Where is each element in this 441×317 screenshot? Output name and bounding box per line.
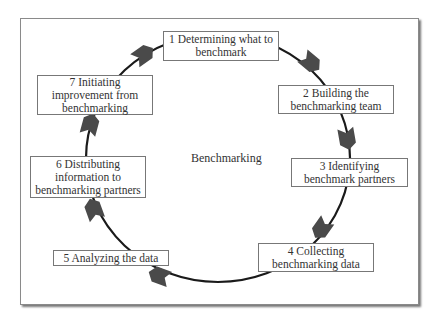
step-3-box: 3 Identifying benchmark partners [291,158,408,187]
step-2-label: 2 Building the benchmarking team [282,87,390,113]
step-6-box: 6 Distributing information to benchmarki… [30,156,146,198]
step-7-box: 7 Initiating improvement from benchmarki… [37,75,153,115]
step-4-label: 4 Collecting benchmarking data [262,245,370,271]
arrow-icon-4-to-5 [146,264,172,287]
arrow-icon-1-to-2 [297,49,324,75]
arrow-icon-6-to-7 [80,111,101,136]
diagram-title: Benchmarking [191,151,262,166]
step-3-label: 3 Identifying benchmark partners [295,160,404,186]
step-7-label: 7 Initiating improvement from benchmarki… [41,76,149,115]
step-2-box: 2 Building the benchmarking team [278,85,394,114]
arrow-icon-3-to-4 [309,215,335,242]
step-5-label: 5 Analyzing the data [64,252,159,265]
step-1-box: 1 Determining what to benchmark [163,31,279,61]
step-5-box: 5 Analyzing the data [53,250,169,266]
step-4-box: 4 Collecting benchmarking data [258,243,374,272]
step-1-label: 1 Determining what to benchmark [167,33,275,59]
step-6-label: 6 Distributing information to benchmarki… [34,158,142,197]
